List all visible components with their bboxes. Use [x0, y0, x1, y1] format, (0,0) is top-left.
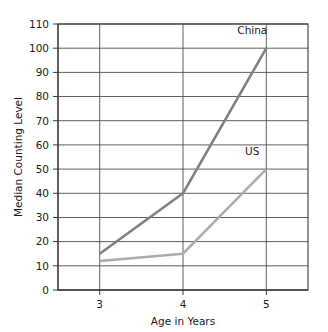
ytick-label-90: 90 [36, 66, 49, 78]
ytick-label-10: 10 [36, 260, 49, 272]
x-axis-title: Age in Years [151, 315, 215, 327]
xtick-label-3: 3 [96, 298, 103, 310]
vertical-gridlines [100, 24, 267, 290]
ytick-label-40: 40 [36, 187, 49, 199]
series-label-us: US [245, 145, 260, 157]
x-tick-marks [100, 290, 267, 295]
ytick-label-20: 20 [36, 235, 49, 247]
xtick-label-4: 4 [180, 298, 187, 310]
chart-container: 0 10 20 30 40 50 60 70 80 90 100 110 3 4… [0, 0, 328, 332]
ytick-label-60: 60 [36, 139, 49, 151]
line-chart-figure: 0 10 20 30 40 50 60 70 80 90 100 110 3 4… [0, 0, 328, 332]
ytick-label-80: 80 [36, 90, 49, 102]
ytick-label-110: 110 [29, 18, 49, 30]
ytick-label-50: 50 [36, 163, 49, 175]
x-tick-labels: 3 4 5 [96, 298, 269, 310]
y-tick-marks [53, 24, 58, 290]
y-tick-labels: 0 10 20 30 40 50 60 70 80 90 100 110 [29, 18, 49, 296]
y-axis-title: Median Counting Level [12, 97, 24, 217]
series-label-china: China [237, 24, 267, 36]
ytick-label-30: 30 [36, 211, 49, 223]
ytick-label-0: 0 [42, 284, 49, 296]
xtick-label-5: 5 [263, 298, 270, 310]
ytick-label-100: 100 [29, 42, 49, 54]
ytick-label-70: 70 [36, 115, 49, 127]
